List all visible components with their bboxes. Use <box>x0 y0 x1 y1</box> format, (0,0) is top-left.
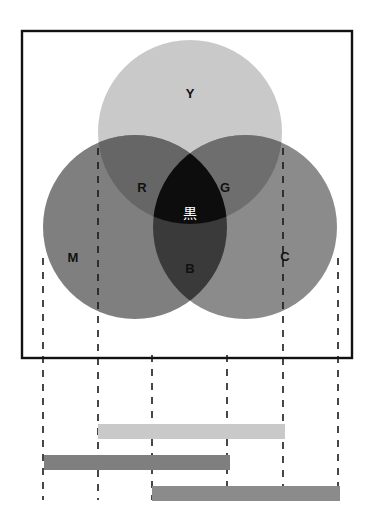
figure-canvas: YMCRGB黒 <box>0 0 374 526</box>
label-K: 黒 <box>183 205 197 221</box>
bar-M <box>44 455 230 470</box>
bar-Y <box>98 424 285 439</box>
venn-diagram-svg: YMCRGB黒 <box>0 0 374 526</box>
ink-band-bars <box>44 424 340 501</box>
label-G: G <box>220 180 230 195</box>
label-M: M <box>68 250 79 265</box>
label-Y: Y <box>186 86 195 101</box>
label-R: R <box>137 180 147 195</box>
bar-C <box>152 486 340 501</box>
label-B: B <box>185 261 194 276</box>
label-C: C <box>280 249 290 264</box>
